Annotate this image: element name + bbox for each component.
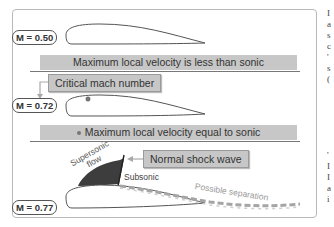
edge-char: ( bbox=[327, 74, 334, 85]
critical-mach-callout: Critical mach number bbox=[48, 74, 161, 92]
cropped-text-column-top: I a s c ' s ( bbox=[327, 8, 334, 85]
normal-shock-callout: Normal shock wave bbox=[143, 150, 249, 168]
mach-label-072: M = 0.72 bbox=[12, 98, 57, 113]
edge-char: s bbox=[327, 30, 334, 41]
banner-below-sonic: Maximum local velocity is less than soni… bbox=[40, 55, 297, 70]
edge-char: s bbox=[327, 63, 334, 74]
mach-label-050: M = 0.50 bbox=[12, 30, 57, 45]
edge-char: ' bbox=[327, 150, 334, 161]
banner-equal-sonic-text: Maximum local velocity equal to sonic bbox=[85, 126, 261, 138]
banner-underline-1 bbox=[30, 71, 300, 72]
edge-char: a bbox=[327, 19, 334, 30]
cropped-text-column-bottom: ' I I a i bbox=[327, 150, 334, 205]
mach-label-077: M = 0.77 bbox=[12, 200, 57, 215]
sonic-point-dot bbox=[86, 97, 90, 101]
edge-char: ' bbox=[327, 52, 334, 63]
edge-char: I bbox=[327, 172, 334, 183]
edge-char: I bbox=[327, 161, 334, 172]
airfoil-shape-1 bbox=[66, 24, 205, 44]
edge-char: a bbox=[327, 183, 334, 194]
edge-char: i bbox=[327, 194, 334, 205]
subsonic-label: Subsonic bbox=[124, 172, 159, 182]
bullet-dot-icon bbox=[77, 131, 81, 135]
critical-mach-arrow bbox=[40, 82, 48, 96]
edge-char: I bbox=[327, 8, 334, 19]
edge-char: c bbox=[327, 41, 334, 52]
banner-underline-2 bbox=[30, 141, 300, 142]
banner-equal-sonic: Maximum local velocity equal to sonic bbox=[40, 125, 297, 140]
